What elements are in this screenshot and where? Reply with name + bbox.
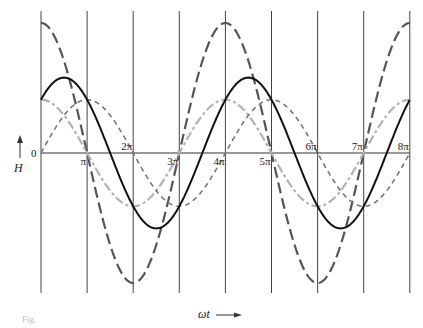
x-tick-label: 6π — [306, 140, 318, 152]
x-tick-label: 3π — [167, 155, 179, 167]
figure-caption: Fig. — [22, 314, 36, 324]
y-axis-label: H — [13, 161, 24, 175]
x-tick-label: 7π — [352, 140, 364, 152]
waveform-chart: π2π3π4π5π6π7π8π 0 H ωt — [0, 0, 423, 328]
origin-label: 0 — [31, 147, 37, 159]
x-tick-label: 8π — [398, 140, 410, 152]
x-tick-label: 4π — [213, 155, 225, 167]
x-tick-label: 2π — [121, 140, 133, 152]
x-tick-label: π — [81, 155, 87, 167]
up-arrow-head-icon — [17, 135, 23, 143]
y-axis-label-group: H — [13, 135, 24, 175]
x-tick-label: 5π — [260, 155, 272, 167]
x-axis-label-group: ωt — [198, 307, 242, 321]
right-arrow-head-icon — [234, 313, 242, 318]
x-axis-label: ωt — [198, 307, 210, 321]
